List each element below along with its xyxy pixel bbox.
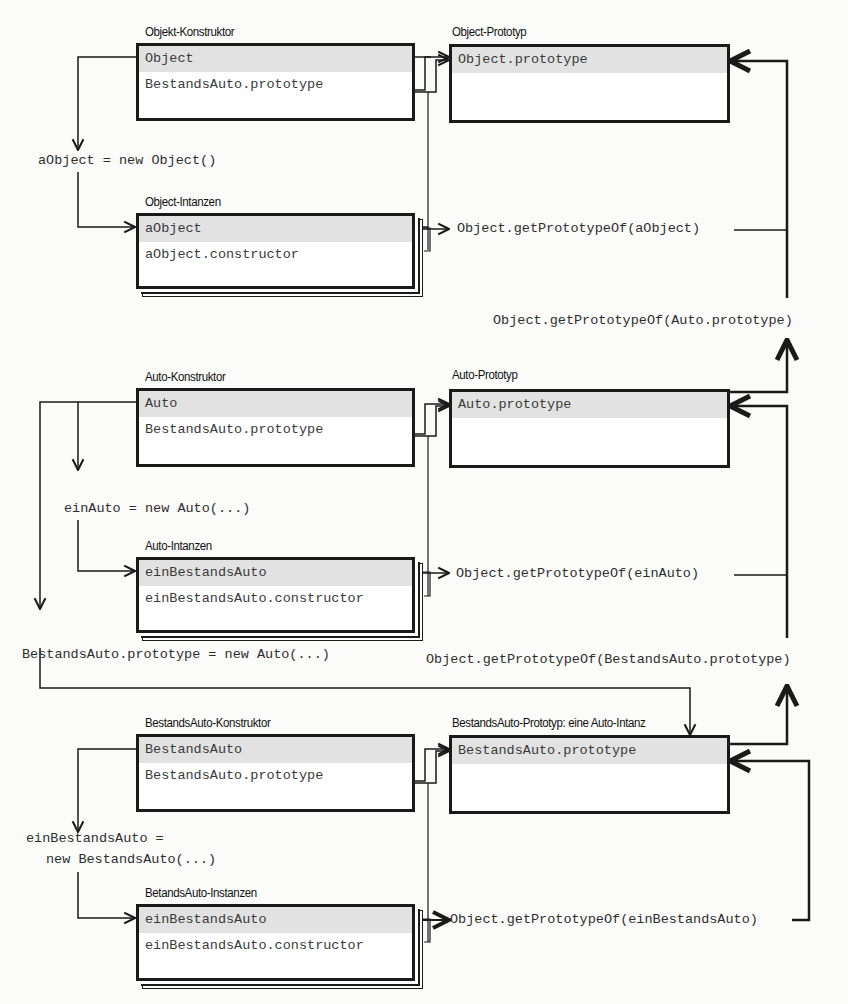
auto-constructor-box: Auto BestandsAuto.prototype bbox=[136, 388, 415, 467]
bestandsauto-prototype-row: BestandsAuto.prototype bbox=[452, 738, 727, 764]
object-prototype-title: Object-Prototyp bbox=[452, 25, 526, 39]
new-object-statement: aObject = new Object() bbox=[38, 153, 216, 168]
get-prototype-of-einbestandsauto: Object.getPrototypeOf(einBestandsAuto) bbox=[450, 912, 758, 927]
new-bestandsauto-statement-line2: new BestandsAuto(...) bbox=[46, 852, 216, 867]
new-auto-statement: einAuto = new Auto(...) bbox=[64, 501, 250, 516]
auto-instances-box: einBestandsAuto einBestandsAuto.construc… bbox=[136, 557, 415, 633]
instance-row: einBestandsAuto bbox=[139, 560, 412, 586]
bestandsauto-constructor-title: BestandsAuto-Konstruktor bbox=[145, 716, 270, 730]
auto-prototype-title: Auto-Prototyp bbox=[452, 368, 518, 382]
object-constructor-box: Object BestandsAuto.prototype bbox=[136, 43, 415, 121]
constructor-row: aObject.constructor bbox=[139, 242, 412, 268]
instance-row: einBestandsAuto bbox=[139, 907, 412, 933]
auto-prototype-row: Auto.prototype bbox=[452, 392, 727, 418]
prototype-property-row: BestandsAuto.prototype bbox=[139, 417, 412, 443]
bestandsauto-constructor-row: BestandsAuto bbox=[139, 737, 412, 763]
bestandsauto-instances-box: einBestandsAuto einBestandsAuto.construc… bbox=[136, 904, 415, 981]
object-constructor-title: Objekt-Konstruktor bbox=[145, 25, 234, 39]
object-prototype-box: Object.prototype bbox=[449, 44, 730, 123]
get-prototype-of-einauto: Object.getPrototypeOf(einAuto) bbox=[456, 566, 699, 581]
auto-instances-title: Auto-Intanzen bbox=[145, 539, 212, 553]
get-prototype-of-aobject: Object.getPrototypeOf(aObject) bbox=[457, 221, 700, 236]
bestandsauto-prototype-assign-statement: BestandsAuto.prototype = new Auto(...) bbox=[22, 647, 330, 662]
get-prototype-of-bestandsauto-prototype: Object.getPrototypeOf(BestandsAuto.proto… bbox=[426, 652, 791, 667]
auto-constructor-row: Auto bbox=[139, 391, 412, 417]
auto-prototype-box: Auto.prototype bbox=[449, 389, 730, 468]
object-instances-box: aObject aObject.constructor bbox=[136, 213, 415, 289]
bestandsauto-constructor-box: BestandsAuto BestandsAuto.prototype bbox=[136, 734, 415, 812]
object-instances-title: Object-Intanzen bbox=[145, 195, 221, 209]
prototype-property-row: BestandsAuto.prototype bbox=[139, 763, 412, 789]
constructor-row: einBestandsAuto.constructor bbox=[139, 933, 412, 959]
prototype-property-row: BestandsAuto.prototype bbox=[139, 72, 412, 98]
object-constructor-row: Object bbox=[139, 46, 412, 72]
bestandsauto-prototype-title: BestandsAuto-Prototyp: eine Auto-Intanz bbox=[452, 716, 645, 730]
constructor-row: einBestandsAuto.constructor bbox=[139, 586, 412, 612]
bestandsauto-instances-title: BetandsAuto-Instanzen bbox=[145, 886, 257, 900]
object-prototype-row: Object.prototype bbox=[452, 47, 727, 73]
instance-row: aObject bbox=[139, 216, 412, 242]
get-prototype-of-auto-prototype: Object.getPrototypeOf(Auto.prototype) bbox=[493, 313, 793, 328]
auto-constructor-title: Auto-Konstruktor bbox=[145, 370, 225, 384]
new-bestandsauto-statement-line1: einBestandsAuto = bbox=[26, 831, 164, 846]
bestandsauto-prototype-box: BestandsAuto.prototype bbox=[449, 735, 730, 814]
prototype-chain-diagram: Objekt-Konstruktor Object BestandsAuto.p… bbox=[0, 0, 848, 1004]
